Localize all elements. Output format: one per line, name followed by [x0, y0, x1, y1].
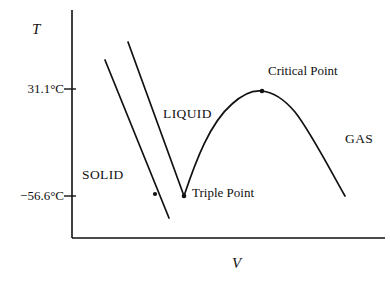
plot-canvas: [0, 0, 390, 282]
phase-diagram-figure: T V 31.1°C −56.6°C SOLID LIQUID GAS Crit…: [0, 0, 390, 282]
solid-line-dot-marker: [153, 192, 157, 196]
solid-liquid-boundary-left-curve: [105, 60, 169, 218]
critical-point-dot-marker: [260, 89, 265, 94]
region-label-liquid: LIQUID: [163, 107, 212, 121]
triple-point-dot-marker: [182, 194, 187, 199]
y-axis-label: T: [32, 22, 40, 37]
region-label-gas: GAS: [345, 132, 373, 146]
region-label-solid: SOLID: [82, 168, 124, 182]
triple-point-label: Triple Point: [192, 186, 254, 199]
y-tick-label-minus56: −56.6°C: [0, 189, 64, 202]
critical-point-label: Critical Point: [268, 64, 338, 77]
x-axis-label: V: [232, 256, 241, 271]
y-tick-label-31: 31.1°C: [2, 82, 64, 95]
